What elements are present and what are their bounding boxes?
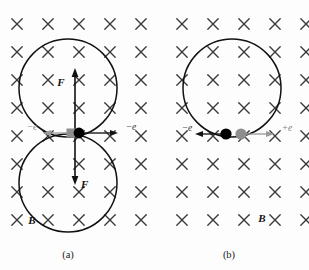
field-cross-icon: [105, 215, 115, 225]
panel-b-particle-gray-dot: [235, 128, 246, 139]
panel-b-orbit: [183, 39, 281, 137]
panel-a-velocity-label-left: −e: [27, 122, 38, 132]
field-cross-icon: [270, 75, 280, 85]
field-cross-icon: [270, 47, 280, 57]
field-cross-icon: [177, 75, 187, 85]
field-cross-icon: [136, 159, 146, 169]
field-cross-icon: [136, 187, 146, 197]
panel-a-force-label-down: F: [80, 178, 89, 190]
field-cross-icon: [12, 19, 22, 29]
field-cross-icon: [43, 103, 53, 113]
field-cross-icon: [301, 215, 309, 225]
panel-a-caption: (a): [62, 249, 74, 261]
field-cross-icon: [239, 75, 249, 85]
field-cross-icon: [12, 215, 22, 225]
physics-figure: F F −e −e B (a) −e +e B (b): [0, 0, 309, 270]
field-cross-icon: [74, 19, 84, 29]
panel-a-velocity-label-right: −e: [126, 122, 137, 132]
field-cross-icon: [105, 187, 115, 197]
panel-b: −e +e B (b): [182, 39, 293, 261]
field-cross-icon: [239, 47, 249, 57]
field-cross-icon: [43, 19, 53, 29]
field-cross-icon: [208, 215, 218, 225]
field-cross-icon: [105, 75, 115, 85]
field-cross-icon: [239, 159, 249, 169]
panel-a-force-label-up: F: [56, 76, 65, 88]
field-cross-icon: [301, 19, 309, 29]
panel-b-velocity-label-left: −e: [182, 123, 193, 133]
panel-a-particle-black-dot: [74, 128, 85, 139]
field-cross-icon: [177, 159, 187, 169]
field-cross-icon: [12, 131, 22, 141]
field-cross-icon: [43, 75, 53, 85]
field-cross-icon: [43, 47, 53, 57]
field-cross-icon: [239, 103, 249, 113]
field-cross-icon: [208, 47, 218, 57]
field-cross-icon: [301, 75, 309, 85]
field-cross-icon: [74, 215, 84, 225]
field-cross-icon: [105, 19, 115, 29]
field-cross-icon: [301, 47, 309, 57]
field-cross-icon: [177, 19, 187, 29]
field-cross-icon: [136, 47, 146, 57]
field-cross-icon: [43, 187, 53, 197]
field-cross-icon: [208, 19, 218, 29]
field-cross-icon: [270, 159, 280, 169]
field-cross-icon: [177, 187, 187, 197]
field-cross-icon: [301, 103, 309, 113]
field-cross-icon: [12, 103, 22, 113]
field-cross-icon: [43, 159, 53, 169]
field-cross-icon: [136, 103, 146, 113]
field-cross-icon: [270, 215, 280, 225]
panel-b-field-label: B: [257, 212, 265, 224]
field-cross-icon: [43, 215, 53, 225]
field-cross-icon: [301, 131, 309, 141]
field-cross-icon: [12, 47, 22, 57]
panel-a-force-arrow-down-head: [72, 176, 79, 185]
panel-a-field-label: B: [27, 214, 35, 226]
field-cross-icon: [12, 159, 22, 169]
figure-canvas: F F −e −e B (a) −e +e B (b): [0, 0, 309, 270]
panel-a-velocity-right-head: [110, 130, 118, 136]
panel-a-force-arrow-up-head: [72, 68, 79, 77]
field-cross-icon: [239, 19, 249, 29]
field-cross-icon: [136, 19, 146, 29]
field-cross-icon: [208, 187, 218, 197]
field-cross-icon: [301, 187, 309, 197]
panel-b-caption: (b): [223, 249, 236, 261]
field-cross-icon: [177, 47, 187, 57]
field-cross-icon: [136, 131, 146, 141]
field-cross-icon: [208, 75, 218, 85]
field-cross-icon: [239, 215, 249, 225]
field-cross-icon: [105, 47, 115, 57]
magnetic-field-cross-grid: [12, 19, 309, 225]
panel-b-particle-black-dot: [220, 128, 231, 139]
panel-a: F F −e −e B (a): [19, 39, 136, 261]
field-cross-icon: [177, 215, 187, 225]
field-cross-icon: [301, 159, 309, 169]
field-cross-icon: [208, 159, 218, 169]
field-cross-icon: [239, 187, 249, 197]
field-cross-icon: [208, 103, 218, 113]
panel-b-velocity-left-head: [195, 131, 203, 137]
field-cross-icon: [270, 19, 280, 29]
field-cross-icon: [136, 215, 146, 225]
field-cross-icon: [74, 47, 84, 57]
panel-b-velocity-label-right: +e: [282, 123, 293, 133]
field-cross-icon: [136, 75, 146, 85]
field-cross-icon: [270, 131, 280, 141]
field-cross-icon: [270, 187, 280, 197]
